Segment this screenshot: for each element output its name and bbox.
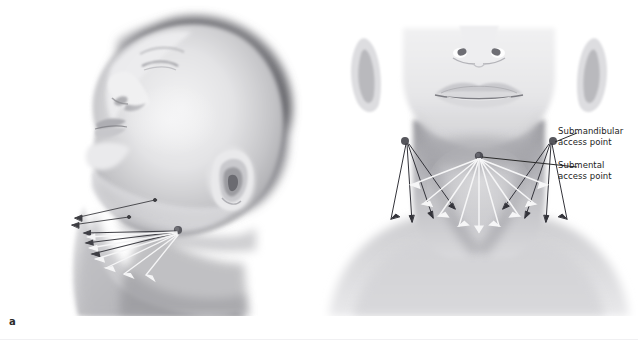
callout-submental-line1: Submental (558, 160, 612, 171)
panel-a: a (0, 0, 319, 340)
panel-a-illustration (0, 0, 319, 316)
callout-submandibular-line1: Submandibular (558, 126, 623, 137)
panel-b-illustration (319, 0, 638, 316)
figure-container: a (0, 0, 638, 348)
panel-a-letter: a (9, 316, 16, 327)
callout-submental-line2: access point (558, 171, 612, 182)
callout-submandibular-line2: access point (558, 137, 623, 148)
cut-off-caption-strip (0, 341, 638, 348)
cut-off-caption-text (22, 341, 622, 342)
callout-submandibular: Submandibular access point (558, 126, 623, 147)
bottom-divider (0, 339, 638, 340)
callout-submental: Submental access point (558, 160, 612, 181)
